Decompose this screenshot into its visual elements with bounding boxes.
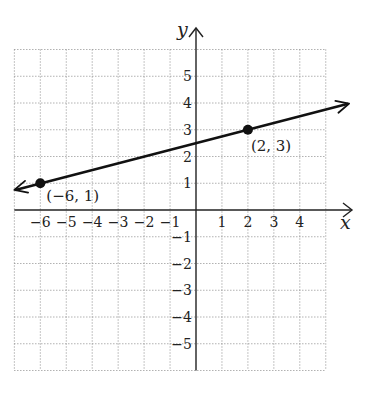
point-label: (2, 3) bbox=[251, 137, 291, 155]
data-series: (−6, 1)(2, 3) bbox=[14, 101, 349, 205]
x-tick-label: −1 bbox=[160, 214, 181, 230]
y-tick-label: −3 bbox=[171, 282, 192, 298]
x-tick-label: −2 bbox=[134, 214, 155, 230]
x-tick-label: −6 bbox=[30, 214, 51, 230]
y-tick-label: 2 bbox=[183, 149, 192, 165]
x-axis-label: x bbox=[340, 211, 351, 233]
y-tick-label: 4 bbox=[183, 95, 192, 111]
x-tick-label: 2 bbox=[243, 214, 252, 230]
x-tick-label: 4 bbox=[295, 214, 304, 230]
y-tick-label: −5 bbox=[171, 336, 192, 352]
x-tick-label: 3 bbox=[269, 214, 278, 230]
y-axis-label: y bbox=[176, 18, 188, 40]
y-tick-label: −2 bbox=[171, 256, 192, 272]
y-tick-label: −4 bbox=[171, 309, 192, 325]
y-tick-label: 1 bbox=[183, 175, 192, 191]
y-tick-label: −1 bbox=[171, 229, 192, 245]
coordinate-plane-chart: −6−5−4−3−2−1123454321−1−2−3−4−5 (−6, 1)(… bbox=[0, 0, 368, 394]
x-tick-label: −4 bbox=[82, 214, 103, 230]
x-tick-label: −3 bbox=[108, 214, 129, 230]
x-tick-label: 1 bbox=[217, 214, 226, 230]
y-tick-label: 5 bbox=[183, 68, 192, 84]
plotted-line bbox=[15, 104, 348, 190]
data-point bbox=[35, 178, 45, 188]
x-tick-label: −5 bbox=[56, 214, 77, 230]
point-label: (−6, 1) bbox=[46, 187, 99, 205]
data-point bbox=[243, 125, 253, 135]
y-tick-label: 3 bbox=[183, 122, 192, 138]
